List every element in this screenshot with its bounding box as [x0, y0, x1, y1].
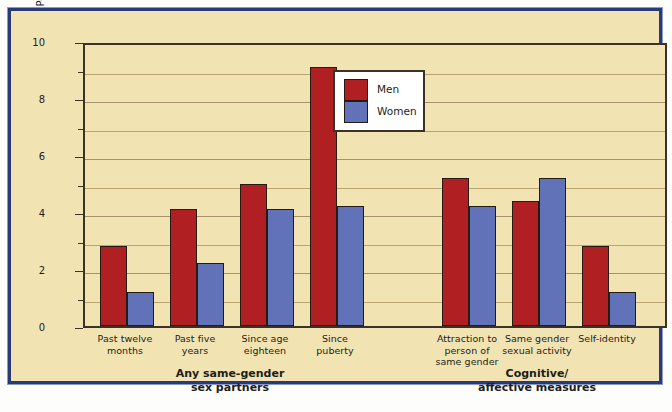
group-caption-1: Cognitive/affective measures [442, 367, 632, 395]
x-axis-label-line: Self-identity [578, 333, 636, 344]
group-caption-line1: Any same-gender [176, 367, 285, 380]
bar-women-0 [127, 292, 154, 326]
y-tick-mark [75, 43, 83, 44]
bar-women-4 [469, 206, 496, 326]
chart-legend: Men Women [333, 70, 425, 132]
x-axis-label-line: sexual activity [502, 345, 572, 356]
x-axis-label-3: Sincepuberty [290, 333, 380, 356]
x-axis-label-line: Past twelve [98, 333, 153, 344]
plot-wrapper: Percent of Total NHSLS Sample 0246810 Pa… [11, 11, 659, 381]
y-tick-label: 2 [5, 266, 45, 276]
bar-men-6 [582, 246, 609, 326]
x-axis-label-line: Since age [242, 333, 289, 344]
y-tick-mark [75, 214, 83, 215]
bar-women-5 [539, 178, 566, 326]
legend-swatch-women [344, 101, 368, 123]
x-axis-label-line: years [182, 345, 208, 356]
y-tick-label: 10 [5, 38, 45, 48]
x-axis-label-line: eighteen [244, 345, 286, 356]
group-caption-0: Any same-gendersex partners [135, 367, 325, 395]
x-axis-label-line: Past five [175, 333, 216, 344]
x-axis-label-6: Self-identity [562, 333, 652, 345]
bar-men-0 [100, 246, 127, 326]
x-axis-label-line: Same gender [505, 333, 569, 344]
bar-men-4 [442, 178, 469, 326]
bar-women-2 [267, 209, 294, 326]
y-tick-label: 6 [5, 152, 45, 162]
y-tick-label: 8 [5, 95, 45, 105]
bar-women-1 [197, 263, 224, 326]
bar-women-6 [609, 292, 636, 326]
bar-men-1 [170, 209, 197, 326]
y-tick-mark [75, 328, 83, 329]
group-caption-line2: sex partners [191, 381, 269, 394]
x-axis-label-line: months [107, 345, 143, 356]
legend-swatch-men [344, 79, 368, 101]
group-caption-line2: affective measures [478, 381, 596, 394]
y-tick-mark [75, 271, 83, 272]
legend-label-men: Men [377, 83, 399, 95]
y-tick-label: 4 [5, 209, 45, 219]
x-axis-label-line: same gender [435, 356, 498, 367]
chart-page: Percent of Total NHSLS Sample 0246810 Pa… [0, 0, 672, 412]
x-axis-label-line: Attraction to [437, 333, 497, 344]
y-tick-label: 0 [5, 323, 45, 333]
bar-men-5 [512, 201, 539, 326]
x-axis-label-line: Since [322, 333, 348, 344]
y-tick-mark [75, 157, 83, 158]
figure-frame: Percent of Total NHSLS Sample 0246810 Pa… [8, 8, 662, 384]
y-tick-mark [75, 100, 83, 101]
x-axis-label-line: person of [444, 345, 489, 356]
x-axis-label-line: puberty [316, 345, 354, 356]
group-caption-line1: Cognitive/ [506, 367, 569, 380]
legend-label-women: Women [377, 105, 417, 117]
bar-men-2 [240, 184, 267, 327]
bar-women-3 [337, 206, 364, 326]
